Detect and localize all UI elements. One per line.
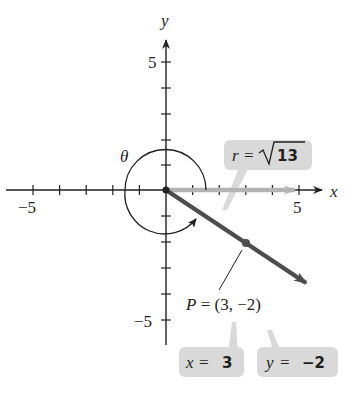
svg-text:y: y	[264, 353, 274, 372]
callout-r: r = 13	[224, 140, 312, 170]
svg-text:13: 13	[277, 147, 298, 165]
point-p-leader	[219, 250, 242, 290]
terminal-side-ray	[166, 190, 306, 283]
theta-label: θ	[120, 147, 128, 166]
y-axis-label: y	[159, 11, 169, 30]
svg-text:=: =	[280, 353, 290, 372]
x-tick-5-label: 5	[293, 198, 302, 217]
y-tick-neg5-label: −5	[134, 312, 152, 331]
svg-text:=: =	[199, 353, 209, 372]
svg-text:r: r	[232, 146, 239, 165]
callout-x: x = 3	[179, 347, 244, 377]
x-tick-neg5-label: −5	[18, 198, 36, 217]
point-p	[242, 239, 250, 247]
svg-text:=: =	[244, 146, 254, 165]
polar-diagram: y x 5 −5 −5 5 θ P = (3, −2) r = 13 x = 3…	[0, 0, 354, 393]
y-tick-5-label: 5	[148, 53, 157, 72]
callout-y: y = −2	[257, 347, 338, 377]
origin-dot	[163, 187, 170, 194]
x-axis-label: x	[329, 182, 338, 201]
svg-text:x: x	[185, 353, 194, 372]
svg-text:−2: −2	[302, 354, 325, 372]
svg-text:3: 3	[222, 354, 232, 372]
point-p-label: P = (3, −2)	[185, 295, 261, 314]
